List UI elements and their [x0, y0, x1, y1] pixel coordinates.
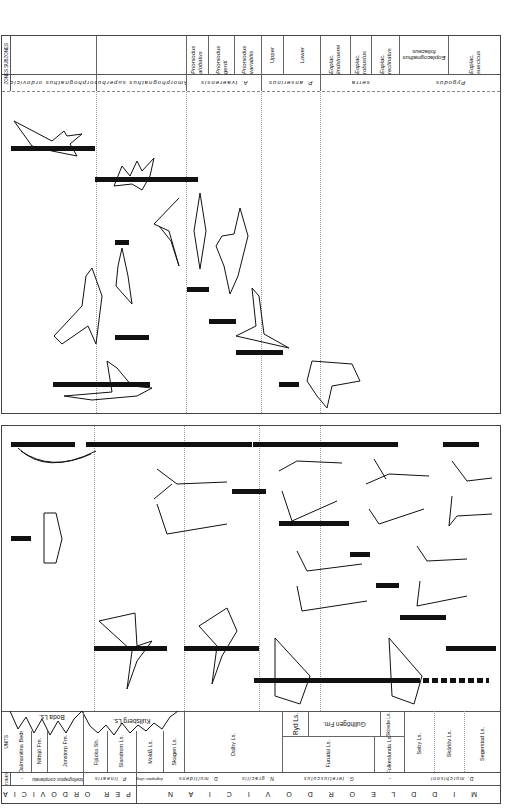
range-bar [86, 442, 252, 447]
zone-cell: Dicellograptus complanatus [32, 773, 83, 785]
unit-name: Skövde Ls. [385, 712, 391, 736]
unit-nittsjo: Nittsjö Fm. [31, 731, 47, 772]
zones-label-text: ZONES [4, 772, 9, 785]
range-bar [446, 646, 496, 651]
zone-boundary-line [261, 92, 262, 413]
zone-cell: N. gracilis [232, 773, 282, 785]
subzone-foliaceus: Eoplacognathus foliaceus [400, 36, 449, 74]
zone-boundary-line [259, 426, 260, 711]
conodont-element-sketch [52, 266, 112, 346]
zone-name: D. murchisoni [430, 776, 474, 782]
subzone-name: Eoplac. lindstroemi [328, 36, 342, 74]
unit-skagen: Skagen Ls. [163, 731, 184, 772]
unit-name: Fjäcka Sh. [93, 739, 99, 765]
unit-name: Jonstorp Fm. [62, 735, 68, 767]
subzone-name: Eoplac. suecicus [468, 36, 482, 74]
top-range-chart-panel: ZONES SUBZONES Amorphognathus ordovicicu… [1, 35, 501, 414]
zone-cell-pygodus: Pygodus [400, 75, 500, 91]
conodont-element-sketch [197, 606, 242, 686]
range-bar-uncertain [414, 678, 489, 683]
subzone-name: Eoplacognathus foliaceus [401, 49, 447, 61]
unit-name: Gullhögen Fm. [323, 721, 366, 728]
range-bar [232, 489, 266, 494]
unit-segerstad: Segerstad Ls. [464, 716, 500, 772]
range-bar [187, 287, 209, 292]
subzone-gerdi: Prioniodus gerdi [209, 36, 235, 74]
subzone-name: Upper [269, 47, 276, 63]
conodont-element-sketch [384, 636, 424, 706]
zone-cell-superbus: Amorphognathus superbus [96, 75, 186, 91]
bottom-range-chart-panel: UNITS ZONES Boda Ls. Kullsberg Ls. Ryd L… [1, 425, 501, 804]
unit-fjacka: Fjäcka Sh. [84, 731, 107, 772]
range-bar [400, 615, 446, 620]
subzone-variabilis: Prioniodus variabilis [235, 36, 261, 74]
unit-name: Nittsjö Fm. [36, 738, 42, 764]
subzone-lindstroemi: Eoplac. lindstroemi [320, 36, 351, 74]
conodont-element-sketch [234, 286, 292, 351]
zone-name: P. linearis [94, 776, 126, 782]
subzone-name: Eoplac. reclinatus [379, 36, 393, 74]
zone-name: Diplograptus clingani [136, 777, 163, 782]
zone-cell: D. murchisoni [404, 773, 500, 785]
zone-name: P. anserinus [268, 80, 313, 86]
zone-cell: Diplograptus clingani [136, 773, 163, 785]
conodont-element-sketch [12, 116, 82, 161]
zone-cell: D. multidens [163, 773, 232, 785]
unit-name: Boda Ls. [39, 714, 65, 721]
subzone-suecicus: Eoplac. suecicus [449, 36, 500, 74]
units-label: UNITS [2, 711, 10, 772]
zone-cell-tvaerensis: A. tvaerensis [186, 75, 261, 91]
zone-name: - [20, 776, 23, 782]
zone-cell: P. linearis [84, 773, 136, 785]
subzone-name: Prioniodus gerdi [215, 36, 229, 74]
conodont-element-sketch [149, 196, 189, 271]
zone-name: N. gracilis [241, 776, 274, 782]
conodont-element-sketch [302, 356, 362, 411]
unit-dalmanitina: Dalmanitina Beds [11, 731, 31, 772]
subzone-reclinatus: Eoplac. reclinatus [372, 36, 400, 74]
zone-name: Dicellograptus complanatus [32, 777, 83, 782]
unit-name: Dalmanitina Beds [18, 731, 24, 772]
subzone-name: Lower [299, 47, 306, 63]
zone-name: serra [351, 80, 370, 86]
zones-subzones-text: ZONES SUBZONES [4, 43, 9, 85]
unit-name: Dalby Ls. [230, 733, 236, 756]
unit-dalby: Dalby Ls. [184, 716, 282, 772]
subzone-name: Eoplac. robustus [354, 36, 368, 74]
subzone-name: Prioniodus alobatus [190, 36, 204, 74]
unit-kullsberg: Kullsberg Ls. [97, 716, 167, 726]
zones-label: ZONES [2, 772, 11, 785]
conodont-element-sketch [364, 454, 434, 529]
series-upper-ordovician: UPPER ORDOVICIAN [2, 786, 137, 803]
conodont-element-sketch [97, 611, 157, 691]
conodont-element-sketch [16, 446, 96, 476]
conodont-element-sketch [212, 206, 252, 296]
zone-name: A. tvaerensis [200, 80, 248, 86]
unit-skovde: Skövde Ls. [380, 712, 396, 736]
unit-boda: Boda Ls. [32, 712, 72, 722]
range-bar [11, 536, 31, 541]
unit-ryd: Ryd Ls. [282, 712, 309, 736]
unit-name: Seby Ls. [416, 733, 422, 754]
conodont-element-sketch [192, 191, 212, 271]
zone-name: G. teretiusculus [303, 776, 354, 782]
zone-name: Pygodus [435, 80, 465, 86]
range-bar [279, 382, 299, 387]
series-name: UPPER ORDOVICIAN [2, 791, 137, 798]
subzone-alobatus: Prioniodus alobatus [186, 36, 209, 74]
range-bar [443, 442, 479, 447]
subzone-robustus: Eoplac. robustus [351, 36, 372, 74]
unit-name: Folkeslunda Ls. [386, 736, 392, 772]
units-label-text: UNITS [4, 735, 9, 749]
unit-name: Furudal Ls. [325, 740, 331, 768]
subzone-name: Prioniodus variabilis [241, 36, 255, 74]
conodont-element-sketch [112, 246, 137, 306]
zone-cell-serra: serra [320, 75, 400, 91]
unit-folkeslunda: Folkeslunda Ls. [374, 736, 404, 772]
zone-name: Amorphognathus superbus [96, 80, 186, 86]
unit-name: Segerstad Ls. [479, 727, 485, 761]
zone-cell-ordovicicus: Amorphognathus ordovicicus [10, 75, 96, 91]
unit-name: Skagen Ls. [171, 738, 177, 766]
conodont-element-sketch [412, 541, 472, 611]
zone-name: Amorphognathus ordovicicus [10, 80, 96, 86]
